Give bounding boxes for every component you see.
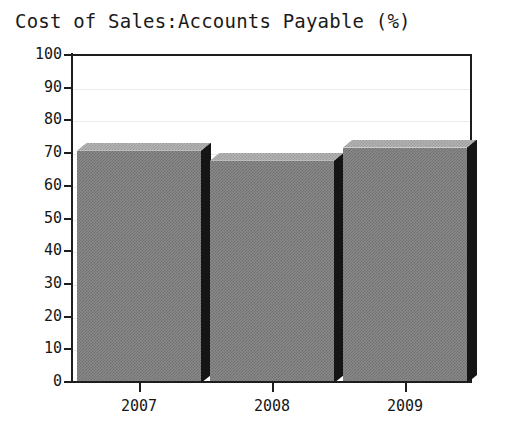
y-axis-tick-label: 20 bbox=[4, 309, 62, 324]
y-axis-tick-label: 60 bbox=[4, 178, 62, 193]
y-axis-tick bbox=[64, 185, 73, 187]
bar bbox=[210, 153, 344, 383]
x-axis-tick bbox=[405, 383, 407, 392]
bar bbox=[77, 143, 211, 383]
y-axis-tick-label: 30 bbox=[4, 276, 62, 291]
y-axis-tick-label: 90 bbox=[4, 80, 62, 95]
bar-front-face bbox=[77, 151, 201, 383]
y-axis-tick bbox=[64, 54, 73, 56]
y-axis-tick-label: 100 bbox=[4, 47, 62, 62]
y-axis-tick-label: 80 bbox=[4, 112, 62, 127]
gridline bbox=[73, 89, 470, 90]
y-axis-tick-label: 70 bbox=[4, 145, 62, 160]
y-axis-tick bbox=[64, 119, 73, 121]
y-axis-tick bbox=[64, 348, 73, 350]
y-axis-tick bbox=[64, 152, 73, 154]
bar-front-face bbox=[343, 148, 467, 383]
bar-top-face bbox=[77, 143, 211, 151]
y-axis-tick bbox=[64, 218, 73, 220]
y-axis-tick bbox=[64, 250, 73, 252]
chart-title: Cost of Sales:Accounts Payable (%) bbox=[15, 9, 411, 33]
y-axis-tick-label: 40 bbox=[4, 243, 62, 258]
bar bbox=[343, 140, 477, 383]
x-axis-tick bbox=[272, 383, 274, 392]
y-axis-tick-label: 0 bbox=[4, 374, 62, 389]
bar-top-face bbox=[343, 140, 477, 148]
y-axis-tick bbox=[64, 283, 73, 285]
x-axis-tick bbox=[139, 383, 141, 392]
y-axis-labels: 1009080706050403020100 bbox=[0, 0, 62, 447]
y-axis-tick-label: 50 bbox=[4, 211, 62, 226]
y-axis-tick-label: 10 bbox=[4, 341, 62, 356]
bar-front-face bbox=[210, 161, 334, 383]
y-axis-tick bbox=[64, 381, 73, 383]
bar-chart: Cost of Sales:Accounts Payable (%) 10090… bbox=[0, 0, 508, 447]
x-axis-tick-label: 2009 bbox=[360, 397, 450, 415]
x-axis-tick-label: 2007 bbox=[94, 397, 184, 415]
x-axis-tick-label: 2008 bbox=[227, 397, 317, 415]
y-axis-tick bbox=[64, 87, 73, 89]
bar-top-face bbox=[210, 153, 344, 161]
y-axis-tick bbox=[64, 316, 73, 318]
bar-side-face bbox=[467, 140, 477, 383]
gridline bbox=[73, 121, 470, 122]
plot-area bbox=[73, 54, 472, 383]
